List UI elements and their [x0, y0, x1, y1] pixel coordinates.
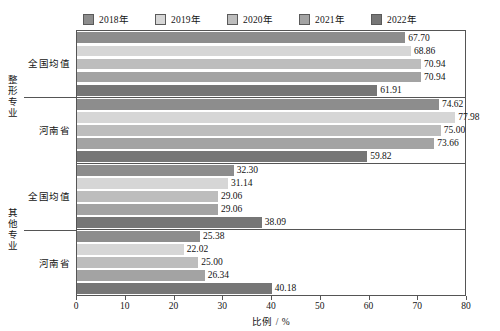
bar[interactable]: 38.09 — [77, 217, 262, 227]
bar-track: 22.02 — [77, 243, 465, 256]
legend-item[interactable]: 2021年 — [299, 12, 345, 26]
bar-track: 40.18 — [77, 282, 465, 295]
bar-value-label: 59.82 — [370, 151, 391, 161]
x-axis-tick — [174, 296, 175, 300]
y-axis-outer-label-text: 整形专业 — [5, 75, 19, 119]
bar-group: 67.7068.8670.9470.9461.91 — [77, 31, 465, 97]
y-axis-labels: 整形专业全国均值河南省其他专业全国均值河南省 — [0, 30, 76, 296]
legend-item[interactable]: 2020年 — [227, 12, 273, 26]
bar-value-label: 67.70 — [408, 33, 429, 43]
bar-track: 68.86 — [77, 44, 465, 57]
bar[interactable]: 68.86 — [77, 46, 411, 57]
bar-track: 74.62 — [77, 98, 465, 111]
x-axis-tick — [271, 296, 272, 300]
bar[interactable]: 61.91 — [77, 85, 377, 96]
bar-value-label: 22.02 — [187, 244, 208, 254]
y-axis-inner-label: 全国均值 — [24, 163, 76, 230]
legend-label: 2018年 — [99, 12, 129, 26]
legend-swatch-icon — [155, 14, 166, 25]
bar[interactable]: 22.02 — [77, 244, 184, 254]
plot-area: 67.7068.8670.9470.9461.9174.6277.9875.00… — [76, 30, 466, 296]
bar-track: 31.14 — [77, 177, 465, 190]
bar[interactable]: 25.00 — [77, 257, 198, 267]
x-axis-tick-label: 10 — [120, 301, 130, 311]
bar-value-label: 32.30 — [237, 165, 258, 175]
y-axis-outer-label: 整形专业 — [0, 30, 24, 163]
legend-item[interactable]: 2019年 — [155, 12, 201, 26]
bar-track: 59.82 — [77, 150, 465, 163]
bar-track: 70.94 — [77, 71, 465, 84]
y-axis-inner-label: 全国均值 — [24, 30, 76, 97]
legend-item[interactable]: 2022年 — [371, 12, 417, 26]
bar-value-label: 68.86 — [414, 46, 435, 56]
x-axis-tick-label: 60 — [364, 301, 374, 311]
bar-value-label: 75.00 — [444, 125, 465, 135]
legend-swatch-icon — [299, 14, 310, 25]
x-axis-tick-label: 80 — [461, 301, 471, 311]
bar[interactable]: 26.34 — [77, 270, 205, 280]
bar-value-label: 25.00 — [201, 257, 222, 267]
legend-item[interactable]: 2018年 — [83, 12, 129, 26]
x-axis-tick — [417, 296, 418, 300]
legend-label: 2022年 — [387, 12, 417, 26]
bar-value-label: 29.06 — [221, 204, 242, 214]
x-axis-tick — [466, 296, 467, 300]
x-axis-tick-label: 70 — [413, 301, 423, 311]
y-axis-outer-label-text: 其他专业 — [5, 208, 19, 252]
bar-track: 67.70 — [77, 31, 465, 44]
y-axis-inner-label: 河南省 — [24, 97, 76, 164]
bar-value-label: 70.94 — [424, 59, 445, 69]
chart-container: 2018年2019年2020年2021年2022年 整形专业全国均值河南省其他专… — [0, 0, 500, 331]
bar[interactable]: 29.06 — [77, 204, 218, 214]
bar-value-label: 31.14 — [231, 178, 252, 188]
legend-label: 2020年 — [243, 12, 273, 26]
bar[interactable]: 31.14 — [77, 178, 228, 188]
bar-track: 25.38 — [77, 230, 465, 243]
y-axis-outer-group: 整形专业全国均值河南省 — [0, 30, 76, 163]
bar[interactable]: 70.94 — [77, 59, 421, 70]
bar-value-label: 25.38 — [203, 231, 224, 241]
y-axis-divider — [24, 97, 76, 98]
x-axis-title: 比例 / % — [76, 314, 466, 328]
bar[interactable]: 75.00 — [77, 125, 441, 135]
legend-swatch-icon — [371, 14, 382, 25]
bar-value-label: 26.34 — [208, 270, 229, 280]
bar[interactable]: 73.66 — [77, 138, 434, 148]
bar[interactable]: 40.18 — [77, 283, 272, 293]
bar[interactable]: 74.62 — [77, 99, 439, 109]
bar-value-label: 70.94 — [424, 72, 445, 82]
x-axis: 比例 / % 01020304050607080 — [76, 296, 466, 330]
bar[interactable]: 70.94 — [77, 72, 421, 83]
bar[interactable]: 77.98 — [77, 112, 455, 122]
bar[interactable]: 59.82 — [77, 151, 367, 161]
bar[interactable]: 32.30 — [77, 165, 234, 175]
bar-track: 25.00 — [77, 256, 465, 269]
chart-legend: 2018年2019年2020年2021年2022年 — [0, 12, 500, 26]
x-axis-tick-label: 30 — [218, 301, 228, 311]
bar-value-label: 29.06 — [221, 191, 242, 201]
bar[interactable]: 67.70 — [77, 32, 405, 43]
bar[interactable]: 25.38 — [77, 231, 200, 241]
bar-track: 70.94 — [77, 57, 465, 70]
bar-value-label: 74.62 — [442, 99, 463, 109]
x-axis-tick — [125, 296, 126, 300]
y-axis-outer-label: 其他专业 — [0, 163, 24, 296]
legend-label: 2019年 — [171, 12, 201, 26]
x-axis-tick — [320, 296, 321, 300]
x-axis-tick — [76, 296, 77, 300]
bar-track: 26.34 — [77, 269, 465, 282]
bar-value-label: 40.18 — [275, 283, 296, 293]
x-axis-tick — [222, 296, 223, 300]
legend-label: 2021年 — [315, 12, 345, 26]
bar-track: 32.30 — [77, 164, 465, 177]
bars-area: 67.7068.8670.9470.9461.9174.6277.9875.00… — [77, 31, 465, 295]
y-axis-outer-group: 其他专业全国均值河南省 — [0, 163, 76, 296]
x-axis-tick-label: 50 — [315, 301, 325, 311]
bar-group: 74.6277.9875.0073.6659.82 — [77, 97, 465, 163]
bar[interactable]: 29.06 — [77, 191, 218, 201]
y-axis-divider — [24, 230, 76, 231]
legend-swatch-icon — [227, 14, 238, 25]
bar-track: 61.91 — [77, 84, 465, 97]
bar-track: 29.06 — [77, 190, 465, 203]
bar-track: 38.09 — [77, 216, 465, 229]
